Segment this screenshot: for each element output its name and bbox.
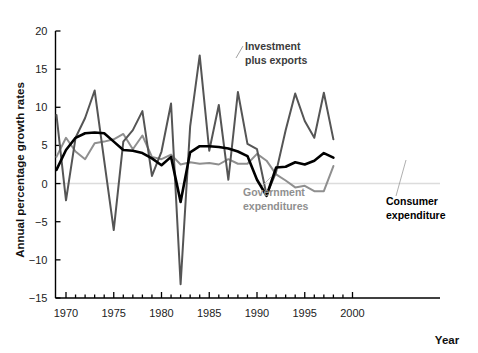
- y-tick-label: 0: [41, 178, 47, 190]
- annotation-government-line1: Government: [243, 186, 305, 198]
- x-axis-title: Year: [435, 334, 460, 346]
- y-tick-label: 15: [35, 63, 47, 75]
- y-tick-label: −5: [35, 216, 48, 228]
- x-tick-label: 1980: [149, 307, 173, 319]
- y-tick-label: 20: [35, 25, 47, 37]
- y-tick-label: −10: [29, 254, 48, 266]
- x-tick-label: 1970: [54, 307, 78, 319]
- x-tick-label: 1985: [197, 307, 221, 319]
- chart-figure: 20151050−5−10−15 19701975198019851990199…: [0, 0, 478, 353]
- y-tick-label: 10: [35, 101, 47, 113]
- annotation-consumer-line1: Consumer: [386, 195, 438, 207]
- line-chart: 20151050−5−10−15 19701975198019851990199…: [0, 0, 478, 353]
- x-tick-label: 1990: [245, 307, 269, 319]
- y-tick-label: 5: [41, 139, 47, 151]
- x-tick-label: 2000: [340, 307, 364, 319]
- annotation-investment-line1: Investment: [245, 40, 301, 52]
- annotation-investment-line2: plus exports: [245, 54, 308, 66]
- y-axis-title: Annual percentage growth rates: [14, 82, 26, 258]
- annotation-government-line2: expenditures: [243, 200, 309, 212]
- x-tick-label: 1975: [102, 307, 126, 319]
- y-tick-label: −15: [29, 292, 48, 304]
- annotation-consumer-line2: expenditure: [386, 209, 446, 221]
- x-tick-label: 1995: [293, 307, 317, 319]
